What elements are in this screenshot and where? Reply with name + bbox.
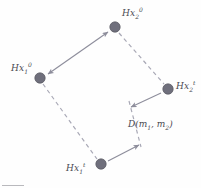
dashed-edge-hx2-0-to-hx2-t: [119, 33, 164, 84]
node-label-hx1-t-sub: 1: [79, 168, 83, 175]
scan-artifact-line: [2, 185, 24, 186]
node-label-hx2-t: Hx2t: [176, 82, 196, 91]
distance-label: D(m1, m2): [128, 120, 173, 129]
dashed-edge-hx1-0-to-hx1-t: [43, 84, 97, 159]
arrow-hx2-t-to-distance: [131, 93, 161, 107]
node-hx1-0[interactable]: [35, 73, 45, 83]
node-label-hx2-0-base: Hx: [122, 8, 135, 18]
node-label-hx1-t-base: Hx: [66, 163, 79, 173]
arrow-group: [48, 32, 161, 161]
node-label-hx1-0-sub: 1: [24, 68, 28, 75]
distance-label-suffix: ): [169, 119, 173, 129]
node-hx2-0[interactable]: [110, 22, 120, 32]
node-label-hx2-0-sup: 0: [139, 6, 143, 13]
node-label-hx2-t-base: Hx: [176, 81, 189, 91]
node-label-hx1-0-base: Hx: [11, 63, 24, 73]
arrow-double-hx1-0-hx2-0: [48, 32, 108, 74]
node-hx1-t[interactable]: [96, 159, 106, 169]
node-label-hx1-t-sup: t: [83, 161, 86, 168]
node-label-hx1-t: Hx1t: [66, 164, 86, 173]
figure-container: Hx20 Hx10 Hx2t Hx1t D(m1, m2): [0, 0, 201, 188]
node-group: [35, 22, 173, 169]
node-label-hx1-0-sup: 0: [28, 61, 32, 68]
node-label-hx2-0: Hx20: [122, 9, 143, 18]
dashed-edge-group: [43, 33, 164, 159]
arrow-hx1-t-to-distance: [108, 145, 139, 161]
diagram-canvas: [0, 0, 201, 188]
node-hx2-t[interactable]: [163, 84, 173, 94]
distance-label-prefix: D(m: [128, 119, 147, 129]
node-label-hx2-t-sup: t: [193, 79, 196, 86]
node-label-hx2-t-sub: 2: [189, 86, 193, 93]
distance-label-mid: , m: [151, 119, 165, 129]
node-label-hx2-0-sub: 2: [135, 13, 139, 20]
node-label-hx1-0: Hx10: [11, 64, 32, 73]
